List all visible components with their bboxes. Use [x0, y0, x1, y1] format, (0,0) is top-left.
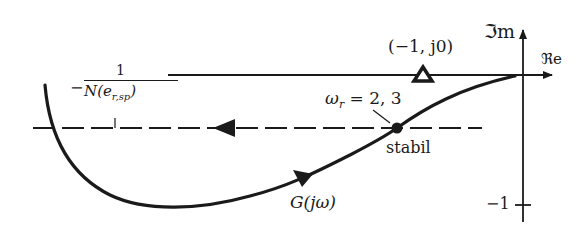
stable-intersection-point [392, 123, 403, 134]
fraction-bar [84, 80, 178, 81]
stability-label: stabil [386, 140, 431, 156]
direction-arrow-curve-icon [293, 170, 313, 187]
describing-function-denominator: N(er,sp) [84, 82, 136, 102]
omega-leader [373, 110, 390, 123]
omega-label: ωr = 2, 3 [325, 90, 402, 110]
critical-point-label: (−1, j0) [388, 38, 453, 55]
direction-arrow-left-icon [213, 119, 235, 137]
critical-point-triangle-icon [414, 67, 432, 81]
frequency-response-label: G(jω) [290, 194, 336, 211]
imaginary-axis-label: ℑm [484, 22, 515, 41]
describing-function-minus: − [70, 78, 83, 97]
tick-label-minus-one: −1 [486, 196, 510, 212]
real-axis-label: ℜe [541, 52, 562, 67]
describing-function-numerator: 1 [116, 62, 125, 78]
